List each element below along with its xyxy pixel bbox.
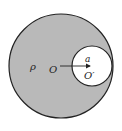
density-label: ρ [29,61,36,72]
center-o-prime-label: O′ [84,70,95,81]
vector-a-label: a [85,54,90,64]
diagram-canvas: ρ O a O′ [0,0,122,131]
center-o-label: O [49,64,57,75]
